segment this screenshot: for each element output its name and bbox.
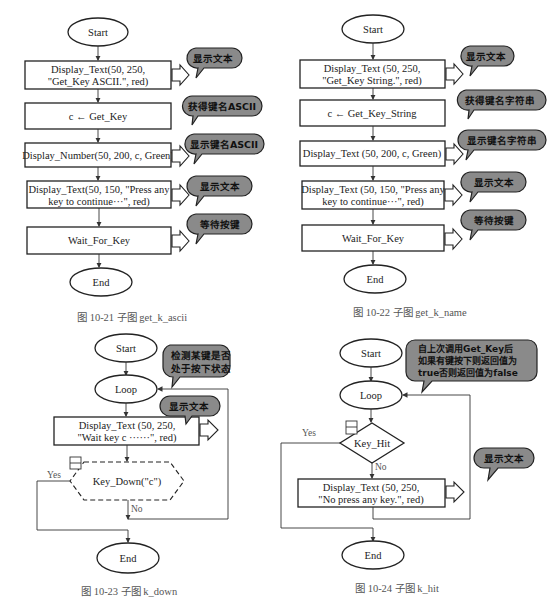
callout-text: 显示文本	[484, 453, 524, 464]
process-text: Display_Text (50, 150, "Press any	[301, 184, 445, 196]
process-text: c ← Get_Key	[69, 111, 128, 122]
start-label: Start	[88, 27, 108, 38]
output-arrow-icon	[172, 185, 189, 205]
process-text: "Get_Key String.", red)	[322, 75, 422, 87]
figure-caption: 图 10-21 子图 get_k_ascii	[77, 312, 187, 323]
figure-k-hit: Start Loop 自上次调用Get_Key后 如果有键按下则返回值为 tru…	[281, 339, 537, 594]
figure-k-down: Start Loop 检测某键是否 处于按下状态 Display_Text (5…	[37, 334, 231, 597]
decision-label: Key_Down("c")	[93, 476, 162, 488]
figure-caption: 图 10-23 子图 k_down	[81, 586, 178, 597]
callout-text: 显示键名字符串	[467, 135, 537, 146]
grid-icon	[346, 421, 357, 434]
output-arrow-icon	[172, 231, 189, 251]
start-label: Start	[116, 343, 136, 354]
process-text: Display_Text (50, 250,	[324, 63, 421, 75]
output-arrow-icon	[445, 229, 462, 249]
process-text: "Get_Key ASCII.", red)	[48, 76, 149, 88]
figure-get-k-name: Start Display_Text (50, 250, "Get_Key St…	[300, 15, 546, 318]
no-label: No	[375, 462, 387, 472]
process-text: c ← Get_Key_String	[327, 108, 417, 119]
callout-text: 显示文本	[474, 177, 514, 188]
figure-caption: 图 10-24 子图 k_hit	[355, 583, 439, 594]
output-arrow-icon	[446, 64, 463, 84]
process-text: Display_Text(50, 250,	[51, 64, 145, 76]
output-arrow-icon	[200, 420, 218, 440]
callout-text: 检测某键是否	[171, 350, 231, 361]
start-label: Start	[361, 348, 381, 359]
process-text: Display_Text (50, 250,	[323, 482, 420, 494]
output-arrow-icon	[445, 185, 462, 205]
output-arrow-icon	[172, 65, 189, 85]
end-label: End	[93, 277, 111, 288]
yes-label: Yes	[302, 428, 316, 438]
callout-text: 自上次调用Get_Key后	[418, 343, 513, 354]
process-text: "No press any key.", red)	[318, 494, 424, 506]
end-label: End	[367, 274, 385, 285]
flowchart-canvas: Start Display_Text(50, 250, "Get_Key ASC…	[0, 0, 556, 612]
callout-text: 等待按键	[199, 219, 240, 230]
loop-label: Loop	[360, 390, 382, 401]
decision-label: Key_Hit	[354, 438, 390, 449]
process-text: Wait_For_Key	[342, 233, 405, 244]
process-text: key to continue···", red)	[48, 196, 150, 208]
loop-label: Loop	[115, 384, 137, 395]
yes-label: Yes	[47, 470, 61, 480]
callout-text: 显示文本	[466, 51, 506, 62]
process-text: Wait_For_Key	[68, 235, 131, 246]
end-label: End	[365, 550, 383, 561]
figure-get-k-ascii: Start Display_Text(50, 250, "Get_Key ASC…	[22, 18, 264, 323]
callout-text: 获得键名字符串	[464, 95, 535, 106]
start-label: Start	[363, 24, 383, 35]
callout-text: 显示键名ASCII	[190, 139, 258, 150]
process-text: "Wait key c ······", red)	[78, 432, 177, 444]
callout-text: 等待按键	[473, 215, 514, 226]
process-text: Display_Text (50, 250,	[79, 420, 176, 432]
callout-text: true否则返回值为false	[418, 367, 518, 378]
process-text: Display_Text (50, 200, c, Green)	[303, 148, 442, 160]
end-label: End	[120, 553, 138, 564]
callout-text: 获得键名ASCII	[187, 101, 256, 112]
callout-text: 如果有键按下则返回值为	[418, 355, 517, 366]
process-text: Display_Number(50, 200, c, Green)	[22, 150, 174, 162]
callout-text: 显示文本	[169, 401, 209, 412]
process-text: Display_Text(50, 150, "Press any	[29, 184, 171, 196]
callout-text: 处于按下状态	[170, 363, 231, 374]
no-label: No	[131, 504, 143, 514]
process-text: key to continue···", red)	[322, 196, 424, 208]
callout-text: 显示文本	[200, 181, 240, 192]
callout-text: 显示文本	[193, 53, 233, 64]
output-arrow-icon	[446, 482, 464, 502]
figure-caption: 图 10-22 子图 get_k_name	[353, 307, 467, 318]
